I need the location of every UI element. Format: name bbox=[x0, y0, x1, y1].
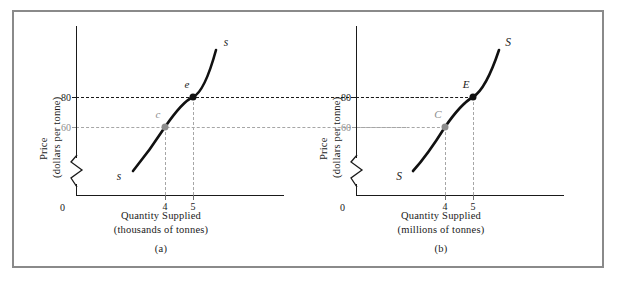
point-E-label-b: E bbox=[463, 79, 470, 90]
x-axis-b bbox=[356, 195, 564, 196]
curve-label-bottom-a: s bbox=[117, 171, 121, 183]
curve-label-bottom-b: S bbox=[396, 171, 402, 183]
axis-break-b bbox=[349, 155, 365, 187]
point-E-marker-b bbox=[470, 94, 477, 101]
x-tick-mark-4-a bbox=[165, 195, 166, 200]
panel-id-b: (b) bbox=[294, 243, 588, 254]
plot-area-a: 80 60 4 5 0 e c s s bbox=[76, 26, 286, 196]
y-tick-mark-80-a bbox=[72, 97, 76, 98]
x-tick-mark-4-b bbox=[445, 195, 446, 200]
figure-frame: Price (dollars per tonne) 80 60 bbox=[12, 10, 604, 268]
y-tick-mark-60-a bbox=[72, 127, 76, 128]
x-tick-mark-5-b bbox=[473, 195, 474, 200]
axis-break-a bbox=[69, 155, 85, 187]
x-axis-caption-units-a: (thousands of tonnes) bbox=[14, 224, 308, 235]
y-axis-label-units-a: (dollars per tonne) bbox=[51, 58, 69, 178]
supply-curve-b bbox=[356, 26, 566, 196]
x-axis-caption-units-b: (millions of tonnes) bbox=[294, 224, 588, 235]
supply-curve-a bbox=[76, 26, 286, 196]
point-c-marker-a bbox=[162, 124, 169, 131]
curve-label-top-b: S bbox=[505, 37, 511, 49]
y-tick-mark-60-b bbox=[352, 127, 356, 128]
panel-b: Price (dollars per tonne) 80 60 4 5 bbox=[294, 12, 588, 266]
y-tick-mark-80-b bbox=[352, 97, 356, 98]
point-c-label-a: c bbox=[156, 109, 161, 120]
x-axis-a bbox=[76, 195, 284, 196]
panel-id-a: (a) bbox=[14, 243, 308, 254]
y-tick-label-80-a: 80 bbox=[61, 93, 71, 103]
point-C-marker-b bbox=[442, 124, 449, 131]
point-e-marker-a bbox=[190, 94, 197, 101]
y-tick-label-60-a: 60 bbox=[61, 123, 71, 133]
x-tick-mark-5-a bbox=[193, 195, 194, 200]
y-tick-label-60-b: 60 bbox=[341, 123, 351, 133]
y-axis-a bbox=[76, 26, 77, 158]
x-axis-caption-a: Quantity Supplied bbox=[14, 210, 308, 221]
point-C-label-b: C bbox=[434, 109, 441, 120]
x-axis-caption-b: Quantity Supplied bbox=[294, 210, 588, 221]
curve-label-top-a: s bbox=[224, 37, 228, 49]
y-axis-label-units-b: (dollars per tonne) bbox=[331, 58, 349, 178]
panel-a: Price (dollars per tonne) 80 60 bbox=[14, 12, 308, 266]
y-axis-b bbox=[356, 26, 357, 158]
y-tick-label-80-b: 80 bbox=[341, 93, 351, 103]
plot-area-b: 80 60 4 5 0 E C S S bbox=[356, 26, 566, 196]
point-e-label-a: e bbox=[185, 79, 190, 90]
